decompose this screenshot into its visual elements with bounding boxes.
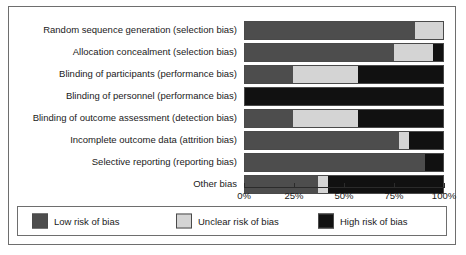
chart-row: Blinding of outcome assessment (detectio… [9, 107, 455, 129]
axis-tick [394, 183, 395, 188]
chart-row: Incomplete outcome data (attrition bias) [9, 129, 455, 151]
bar-segment [358, 110, 443, 127]
chart-legend: Low risk of biasUnclear risk of biasHigh… [17, 206, 447, 236]
legend-label: Unclear risk of bias [198, 216, 279, 227]
bar-segment [245, 22, 415, 39]
bar-segment [293, 110, 358, 127]
row-label: Blinding of outcome assessment (detectio… [23, 107, 237, 129]
row-label: Blinding of participants (performance bi… [23, 63, 237, 85]
bar-segment [433, 44, 443, 61]
bar-segment [245, 132, 399, 149]
bar-segment [409, 132, 443, 149]
axis-tick-label: 50% [334, 190, 353, 201]
axis-tick [294, 183, 295, 188]
row-label: Selective reporting (reporting bias) [23, 151, 237, 173]
legend-item: High risk of bias [318, 214, 408, 229]
legend-label: Low risk of bias [54, 216, 119, 227]
row-label: Other bias [23, 173, 237, 195]
legend-swatch [32, 214, 48, 229]
axis-tick-label: 0% [237, 190, 251, 201]
axis-tick-label: 75% [384, 190, 403, 201]
risk-of-bias-figure: Random sequence generation (selection bi… [8, 6, 456, 245]
row-label: Random sequence generation (selection bi… [23, 19, 237, 41]
legend-item: Low risk of bias [32, 214, 119, 229]
axis-tick-label: 100% [432, 190, 456, 201]
bar-segment [245, 88, 443, 105]
bar-segment [245, 66, 293, 83]
bar-segment [399, 132, 409, 149]
axis-tick [444, 183, 445, 188]
bar-segment [394, 44, 434, 61]
chart-row: Blinding of participants (performance bi… [9, 63, 455, 85]
row-label: Blinding of personnel (performance bias) [23, 85, 237, 107]
row-label: Incomplete outcome data (attrition bias) [23, 129, 237, 151]
stacked-bar [244, 87, 444, 106]
bar-segment [245, 44, 394, 61]
stacked-bar [244, 131, 444, 150]
axis-tick [344, 183, 345, 188]
stacked-bar [244, 153, 444, 172]
stacked-bar [244, 21, 444, 40]
stacked-bar [244, 43, 444, 62]
axis-tick [244, 183, 245, 188]
legend-swatch [318, 214, 334, 229]
legend-label: High risk of bias [340, 216, 408, 227]
legend-swatch [176, 214, 192, 229]
bar-segment [245, 110, 293, 127]
bar-segment [358, 66, 443, 83]
bar-segment [245, 154, 425, 171]
row-label: Allocation concealment (selection bias) [23, 41, 237, 63]
legend-item: Unclear risk of bias [176, 214, 279, 229]
chart-row: Selective reporting (reporting bias) [9, 151, 455, 173]
risk-of-bias-chart: Random sequence generation (selection bi… [9, 7, 455, 199]
bar-segment [425, 154, 443, 171]
chart-row: Random sequence generation (selection bi… [9, 19, 455, 41]
bar-segment [415, 22, 443, 39]
stacked-bar [244, 65, 444, 84]
stacked-bar [244, 109, 444, 128]
axis-tick-label: 25% [284, 190, 303, 201]
chart-row: Allocation concealment (selection bias) [9, 41, 455, 63]
bar-segment [293, 66, 358, 83]
chart-row: Blinding of personnel (performance bias) [9, 85, 455, 107]
